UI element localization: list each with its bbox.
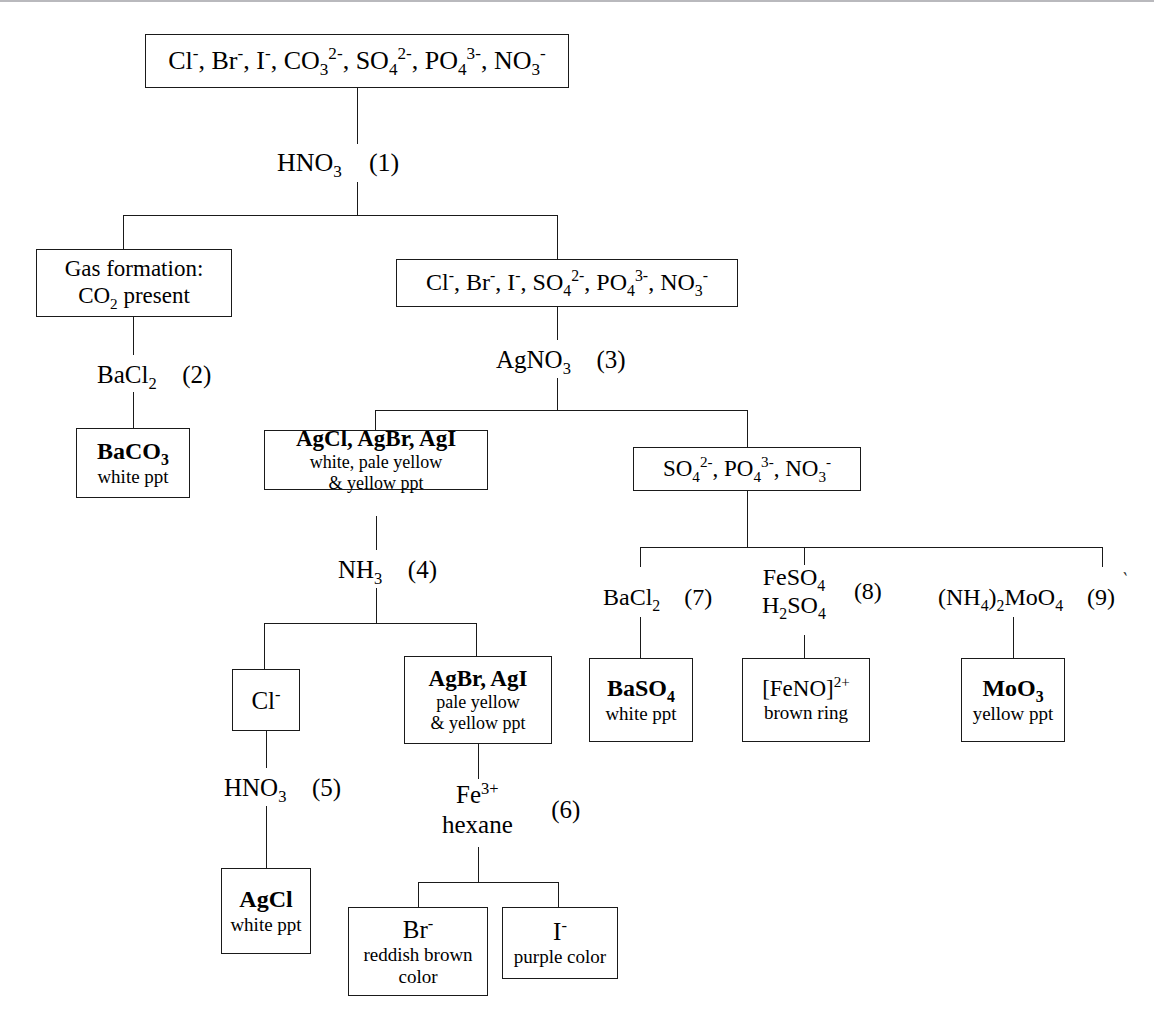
node-baso4-desc: white ppt <box>605 703 676 725</box>
reagent-step6-line2: hexane <box>442 810 513 840</box>
reagent-step9: (NH4)2MoO4 (9) <box>938 581 1115 612</box>
connector-oxyanions-to-step7 <box>640 547 641 567</box>
connector-step1-down <box>357 182 358 215</box>
node-after-hno3-formula: Cl-, Br-, I-, SO42-, PO43-, NO3- <box>426 269 708 297</box>
node-chloride: Cl- <box>232 669 300 731</box>
connector-agbr-agi-to-step6 <box>478 744 479 779</box>
reagent-step7-formula: BaCl2 <box>603 583 660 611</box>
connector-step1-bus <box>123 215 557 216</box>
node-chloride-formula: Cl- <box>251 686 280 715</box>
connector-step7-to-baso4 <box>640 617 641 658</box>
reagent-step7-number: (7) <box>684 583 712 611</box>
node-moo3: MoO3 yellow ppt <box>961 658 1065 742</box>
node-feno-formula: [FeNO]2+ <box>762 676 850 703</box>
node-gas-line1: Gas formation: <box>65 256 204 283</box>
node-moo3-formula: MoO3 <box>982 675 1043 703</box>
node-agbr-agi: AgBr, AgI pale yellow & yellow ppt <box>404 656 552 744</box>
reagent-step8-line2: H2SO4 <box>762 591 826 619</box>
node-baco3-formula: BaCO3 <box>97 438 169 466</box>
connector-step4-to-agbr-agi <box>476 623 477 656</box>
node-silver-halides-formula: AgCl, AgBr, AgI <box>296 426 456 453</box>
node-gas-line2: CO2 present <box>78 283 190 310</box>
node-bromide-desc2: color <box>398 966 437 988</box>
node-feno: [FeNO]2+ brown ring <box>742 658 870 742</box>
node-silver-halides: AgCl, AgBr, AgI white, pale yellow & yel… <box>264 430 488 490</box>
connector-oxyanions-to-step9 <box>1102 547 1103 567</box>
connector-step9-to-moo3 <box>1013 617 1014 658</box>
page-top-rule <box>0 0 1154 2</box>
node-agcl-desc: white ppt <box>230 914 301 936</box>
node-baso4: BaSO4 white ppt <box>589 658 693 742</box>
reagent-step2-number: (2) <box>182 360 211 390</box>
reagent-step1-formula: HNO3 <box>277 148 342 179</box>
node-agcl-formula: AgCl <box>239 886 292 914</box>
node-iodide-formula: I- <box>553 917 567 946</box>
connector-halides-to-step4 <box>376 516 377 550</box>
reagent-step3-number: (3) <box>596 345 625 375</box>
node-after-hno3: Cl-, Br-, I-, SO42-, PO43-, NO3- <box>396 259 738 307</box>
node-bromide: Br- reddish brown color <box>348 907 488 996</box>
reagent-step2-formula: BaCl2 <box>97 360 157 390</box>
node-bromide-formula: Br- <box>403 915 434 944</box>
reagent-step6-line1: Fe3+ <box>442 780 513 810</box>
node-feno-desc: brown ring <box>764 702 848 724</box>
reagent-step1-number: (1) <box>369 148 399 179</box>
connector-step3-bus <box>375 410 747 411</box>
node-iodide-desc: purple color <box>514 946 606 968</box>
reagent-step4-number: (4) <box>408 555 437 585</box>
node-baso4-formula: BaSO4 <box>607 675 675 703</box>
connector-step6-to-iodide <box>558 882 559 907</box>
reagent-step8-number: (8) <box>854 577 882 605</box>
reagent-step3: AgNO3 (3) <box>496 342 626 374</box>
connector-step5-to-agcl <box>266 806 267 868</box>
connector-step4-down <box>376 588 377 623</box>
connector-step8-to-feno <box>804 635 805 658</box>
node-agcl: AgCl white ppt <box>221 868 311 954</box>
node-silver-halides-desc1: white, pale yellow <box>310 452 442 473</box>
reagent-step9-number: (9) <box>1087 583 1115 611</box>
node-agbr-agi-desc2: & yellow ppt <box>431 713 526 734</box>
connector-step3-down <box>557 378 558 410</box>
reagent-step3-formula: AgNO3 <box>496 345 571 375</box>
connector-step2-to-baco3 <box>133 392 134 428</box>
node-moo3-desc: yellow ppt <box>973 703 1054 725</box>
node-baco3-desc: white ppt <box>97 466 168 488</box>
connector-step1-to-gas <box>123 215 124 250</box>
connector-step6-to-bromide <box>418 882 419 907</box>
reagent-step6-number: (6) <box>551 795 580 825</box>
connector-step3-to-oxyanions <box>747 410 748 448</box>
reagent-step9-formula: (NH4)2MoO4 <box>938 583 1063 611</box>
node-silver-halides-desc2: & yellow ppt <box>329 473 424 494</box>
connector-root-to-step1 <box>357 88 358 144</box>
node-root-formula: Cl-, Br-, I-, CO32-, SO42-, PO43-, NO3- <box>168 46 546 76</box>
connector-step4-bus <box>264 623 476 624</box>
connector-step4-to-chloride <box>264 623 265 670</box>
flowchart-canvas: Cl-, Br-, I-, CO32-, SO42-, PO43-, NO3- … <box>0 0 1154 1027</box>
reagent-step6: Fe3+ hexane (6) <box>442 780 580 839</box>
reagent-step5-number: (5) <box>312 773 341 803</box>
reagent-step1: HNO3 (1) <box>277 146 399 178</box>
node-root-anions: Cl-, Br-, I-, CO32-, SO42-, PO43-, NO3- <box>145 34 569 88</box>
node-oxyanions-formula: SO42-, PO43-, NO3- <box>663 456 831 483</box>
connector-oxyanions-down <box>747 491 748 547</box>
node-gas-formation: Gas formation: CO2 present <box>36 249 232 317</box>
reagent-step5-formula: HNO3 <box>224 773 286 803</box>
node-oxyanions: SO42-, PO43-, NO3- <box>633 447 861 491</box>
connector-oxyanions-bus <box>640 547 1102 548</box>
node-baco3: BaCO3 white ppt <box>76 428 190 498</box>
connector-step1-to-afterhno3 <box>557 215 558 260</box>
node-bromide-desc1: reddish brown <box>363 944 472 966</box>
node-iodide: I- purple color <box>502 907 618 979</box>
connector-afterhno3-to-step3 <box>557 307 558 340</box>
reagent-step8-line1: FeSO4 <box>762 563 826 591</box>
connector-step6-bus <box>418 882 558 883</box>
connector-chloride-to-step5 <box>266 731 267 768</box>
reagent-step7: BaCl2 (7) <box>603 581 712 612</box>
reagent-step4: NH3 (4) <box>338 552 437 584</box>
connector-gas-to-step2 <box>133 317 134 355</box>
node-agbr-agi-formula: AgBr, AgI <box>429 666 528 693</box>
reagent-step8: FeSO4 H2SO4 (8) <box>762 563 882 620</box>
node-agbr-agi-desc1: pale yellow <box>436 692 519 713</box>
reagent-step2: BaCl2 (2) <box>97 357 211 389</box>
reagent-step5: HNO3 (5) <box>224 770 341 802</box>
